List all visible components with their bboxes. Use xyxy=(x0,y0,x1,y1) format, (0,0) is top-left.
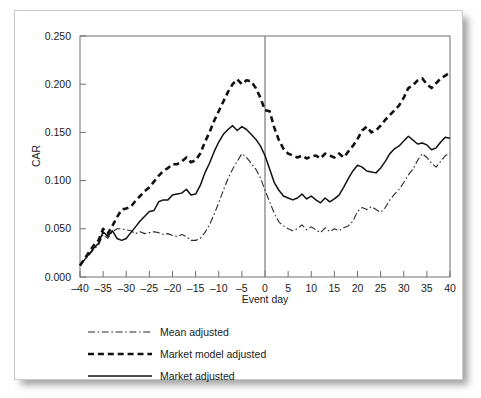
y-tick-label: 0.250 xyxy=(45,30,71,42)
x-tick-label: 20 xyxy=(352,282,364,294)
y-axis-tick-labels: 0.0000.0500.1000.1500.2000.250 xyxy=(45,30,71,283)
x-axis-title: Event day xyxy=(242,293,289,305)
y-tick-label: 0.150 xyxy=(45,126,71,138)
x-tick-label: –30 xyxy=(117,282,135,294)
y-tick-label: 0.000 xyxy=(45,271,71,283)
x-tick-label: –20 xyxy=(164,282,182,294)
x-tick-label: 35 xyxy=(421,282,433,294)
x-tick-label: 15 xyxy=(329,282,341,294)
y-tick-label: 0.200 xyxy=(45,78,71,90)
chart-legend: Mean adjustedMarket model adjustedMarket… xyxy=(88,326,266,382)
y-axis-title: CAR xyxy=(30,144,42,167)
legend-label-market-model-adjusted: Market model adjusted xyxy=(160,348,266,360)
car-event-study-chart: 0.0000.0500.1000.1500.2000.250 –40–35–30… xyxy=(0,0,481,398)
x-tick-label: –10 xyxy=(210,282,228,294)
x-tick-label: –35 xyxy=(94,282,112,294)
x-tick-label: 10 xyxy=(305,282,317,294)
x-tick-label: –25 xyxy=(141,282,159,294)
x-tick-label: –40 xyxy=(71,282,89,294)
x-tick-label: 25 xyxy=(375,282,387,294)
legend-label-market-adjusted: Market adjusted xyxy=(160,370,235,382)
x-tick-label: –15 xyxy=(187,282,205,294)
y-tick-label: 0.100 xyxy=(45,174,71,186)
x-tick-label: 40 xyxy=(444,282,456,294)
y-tick-label: 0.050 xyxy=(45,222,71,234)
x-tick-label: 30 xyxy=(398,282,410,294)
legend-label-mean-adjusted: Mean adjusted xyxy=(160,326,229,338)
